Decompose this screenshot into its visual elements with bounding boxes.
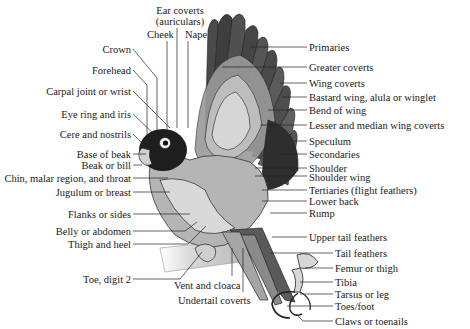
label-rump: Rump [309,208,335,219]
label-undertail-coverts: Undertail coverts [178,295,251,306]
label-carpal-joint: Carpal joint or wrist [46,86,131,97]
label-secondaries: Secondaries [309,149,360,160]
bird-anatomy-diagram: Ear coverts (auriculars) Cheek Nape Crow… [0,0,470,329]
label-greater-coverts: Greater coverts [309,62,373,73]
label-bend-of-wing: Bend of wing [309,105,366,116]
label-lesser-median-coverts: Lesser and median wing coverts [309,120,444,131]
label-upper-tail-feathers: Upper tail feathers [309,232,387,243]
label-crown: Crown [102,44,131,55]
label-toes-foot: Toes/foot [335,301,375,312]
label-ear-coverts: Ear coverts [148,5,212,16]
label-primaries: Primaries [309,42,349,53]
label-toe-digit-2: Toe, digit 2 [83,274,131,285]
label-tail-feathers: Tail feathers [335,248,387,259]
label-claws: Claws or toenails [335,316,408,327]
label-bastard-wing: Bastard wing, alula or winglet [309,92,436,103]
label-cere: Cere and nostrils [60,129,131,140]
label-belly: Belly or abdomen [56,226,131,237]
label-shoulder-wing: Shoulder wing [309,172,371,183]
label-wing-coverts: Wing coverts [309,78,365,89]
label-flanks: Flanks or sides [68,209,131,220]
label-chin: Chin, malar region, and throat [4,173,131,184]
label-base-of-beak: Base of beak [77,149,131,160]
label-femur: Femur or thigh [335,263,398,274]
label-beak: Beak or bill [81,160,131,171]
label-thigh-heel: Thigh and heel [68,239,131,250]
label-lower-back: Lower back [309,196,359,207]
label-vent: Vent and cloaca [174,280,240,291]
label-tarsus: Tarsus or leg [335,289,389,300]
label-nape: Nape [185,29,207,40]
label-speculum: Speculum [309,136,351,147]
label-tibia: Tibia [335,277,357,288]
label-eye-ring: Eye ring and iris [61,109,131,120]
label-forehead: Forehead [92,65,131,76]
label-tertiaries: Tertiaries (flight feathers) [309,185,417,196]
label-auriculars: (auriculars) [148,16,212,27]
head [139,129,187,171]
label-jugulum: Jugulum or breast [56,187,131,198]
label-cheek: Cheek [147,29,174,40]
